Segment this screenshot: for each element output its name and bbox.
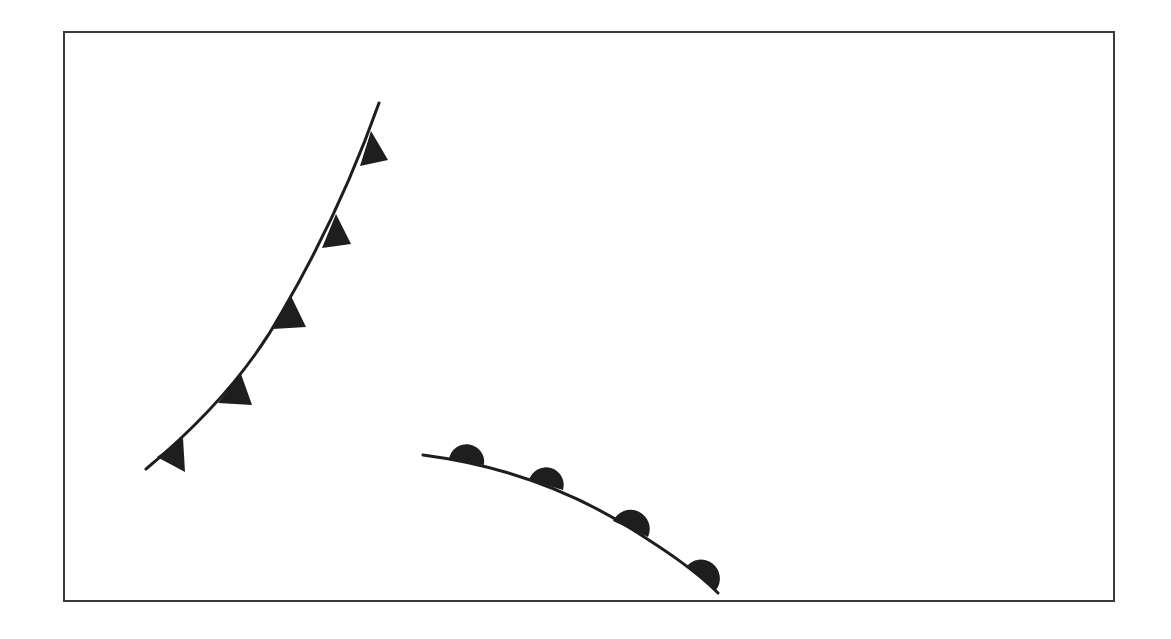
warm-front-semicircle-icon [613, 510, 650, 537]
cold-front-line [146, 103, 379, 469]
warm-front-semicircle-icon [686, 560, 720, 590]
cold-front-triangle-icon [273, 296, 306, 329]
cold-front-triangle-icon [157, 438, 185, 472]
weather-front-diagram [0, 0, 1171, 639]
cold-front-triangles [157, 131, 388, 472]
warm-front [423, 444, 720, 593]
cold-front [146, 103, 388, 472]
cold-front-triangle-icon [360, 131, 388, 166]
warm-front-semicircle-icon [449, 444, 484, 465]
warm-front-line [423, 455, 718, 593]
diagram-frame [64, 32, 1114, 601]
warm-front-semicircles [449, 444, 720, 590]
